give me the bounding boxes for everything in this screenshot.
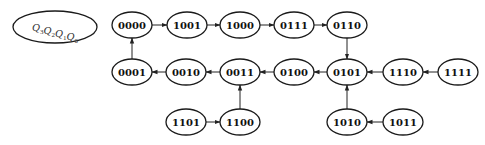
state-label: 1001 [173,20,201,31]
state-node-0101: 0101 [327,59,367,85]
state-label: 0011 [226,67,254,78]
state-label: 0001 [118,67,146,78]
state-label: 0010 [172,67,200,78]
state-node-0001: 0001 [112,59,152,85]
state-node-1001: 1001 [167,12,207,38]
state-label: 0000 [118,20,146,31]
state-node-1101: 1101 [166,109,206,135]
state-label: 1000 [226,20,254,31]
state-label: 1010 [333,117,361,128]
state-diagram: Q3Q2Q1Q0 0000100110000111011000010010001… [0,0,485,145]
state-node-1110: 1110 [383,59,423,85]
state-label: 1101 [172,117,200,128]
state-node-1010: 1010 [327,109,367,135]
state-label: 1111 [444,67,472,78]
state-label: 1100 [226,117,254,128]
state-node-0111: 0111 [274,12,314,38]
state-node-1100: 1100 [220,109,260,135]
legend: Q3Q2Q1Q0 [13,11,97,45]
state-label: 0110 [333,20,361,31]
nodes: 0000100110000111011000010010001101000101… [112,12,478,135]
state-node-0100: 0100 [274,59,314,85]
state-node-1111: 1111 [438,59,478,85]
state-node-0000: 0000 [112,12,152,38]
state-label: 0101 [333,67,361,78]
state-node-0010: 0010 [166,59,206,85]
state-label: 1110 [389,67,417,78]
state-label: 0111 [280,20,308,31]
state-node-1011: 1011 [383,109,423,135]
state-node-0011: 0011 [220,59,260,85]
state-node-0110: 0110 [327,12,367,38]
state-label: 1011 [389,117,417,128]
state-node-1000: 1000 [220,12,260,38]
state-label: 0100 [280,67,308,78]
